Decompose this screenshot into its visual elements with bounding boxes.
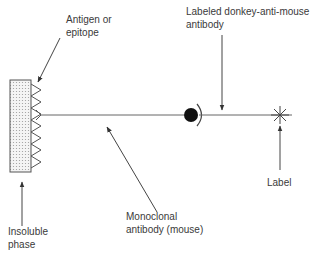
insoluble-phase-block xyxy=(10,80,31,172)
antigen-arrow xyxy=(38,38,60,82)
antigen-label: Antigen or epitope xyxy=(66,13,112,39)
antibody-head-icon xyxy=(184,108,198,122)
insoluble-phase-label: Insoluble phase xyxy=(8,225,48,251)
label-text: Label xyxy=(267,176,291,189)
secondary-antibody-label: Labeled donkey-anti-mouse antibody xyxy=(186,5,309,31)
label-star-icon xyxy=(271,106,289,124)
monoclonal-antibody-label: Monoclonal antibody (mouse) xyxy=(126,210,203,236)
antigen-zigzag xyxy=(31,84,41,168)
monoclonal-arrow xyxy=(107,127,157,212)
